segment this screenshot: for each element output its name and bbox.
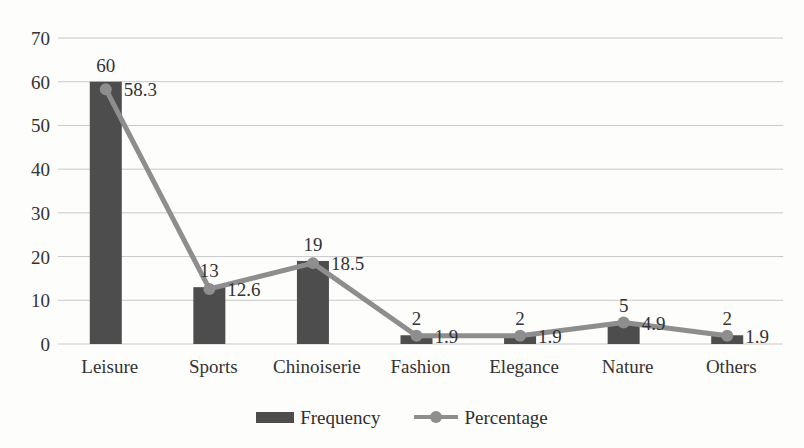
line-marker (203, 283, 215, 295)
line-data-label: 18.5 (331, 254, 364, 273)
bar-data-label: 60 (66, 56, 146, 75)
y-axis-tick-label: 60 (8, 73, 50, 92)
legend-label-percentage: Percentage (464, 408, 547, 427)
line-marker (618, 317, 630, 329)
bar-data-label: 19 (273, 235, 353, 254)
gridlines (58, 38, 783, 344)
line-marker (307, 257, 319, 269)
y-axis-tick-label: 70 (8, 29, 50, 48)
bar (193, 287, 225, 344)
legend-item-frequency[interactable]: Frequency (256, 408, 380, 427)
chart-container: 010203040506070 LeisureSportsChinoiserie… (0, 0, 804, 448)
y-axis-tick-label: 50 (8, 116, 50, 135)
chart-legend: Frequency Percentage (0, 402, 804, 432)
line-data-label: 1.9 (745, 327, 769, 346)
y-axis-tick-label: 0 (8, 335, 50, 354)
y-axis-tick-label: 10 (8, 291, 50, 310)
line-data-label: 58.3 (124, 80, 157, 99)
bar (90, 82, 122, 344)
line-marker (411, 330, 423, 342)
legend-label-frequency: Frequency (300, 408, 380, 427)
line-marker-swatch-icon (414, 411, 458, 423)
legend-item-percentage[interactable]: Percentage (414, 408, 547, 427)
line-data-label: 4.9 (642, 314, 666, 333)
line-data-label: 1.9 (435, 327, 459, 346)
line-data-label: 12.6 (227, 280, 260, 299)
line-marker (721, 330, 733, 342)
y-axis-tick-label: 20 (8, 248, 50, 267)
line-marker (514, 330, 526, 342)
line-data-label: 1.9 (538, 327, 562, 346)
bar-swatch-icon (256, 412, 294, 423)
y-axis-tick-label: 30 (8, 204, 50, 223)
bar-data-label: 13 (169, 261, 249, 280)
y-axis-tick-label: 40 (8, 160, 50, 179)
x-axis-tick-label: Others (651, 357, 804, 376)
line-marker (100, 83, 112, 95)
